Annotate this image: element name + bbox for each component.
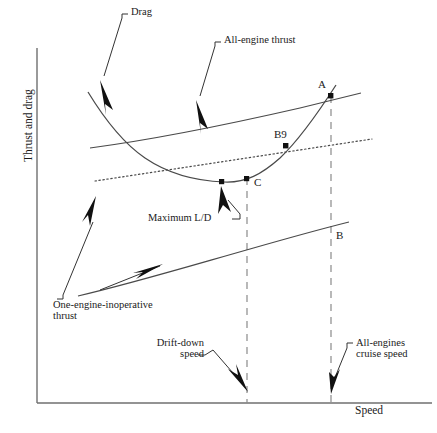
leader-one-engine-inoperative-upper	[57, 222, 93, 299]
arrow-drag	[100, 80, 113, 115]
label-maximum-ld: Maximum L/D	[148, 212, 211, 224]
arrow-drift-down-speed	[228, 364, 248, 392]
leader-drag	[104, 14, 128, 76]
point-label-b9: B9	[274, 128, 287, 140]
label-drag: Drag	[131, 6, 152, 18]
diagram-canvas	[0, 0, 437, 433]
label-all-engines-cruise-speed-line2: cruise speed	[356, 348, 408, 360]
label-one-engine-inoperative-thrust-line1: One-engine-inoperative	[53, 299, 153, 311]
point-label-b: B	[336, 229, 343, 241]
leader-all-engines-cruise-speed	[336, 343, 353, 375]
arrow-one-engine-inoperative-upper	[82, 196, 96, 226]
y-axis-title: Thrust and drag	[22, 89, 35, 162]
label-all-engine-thrust: All-engine thrust	[224, 34, 295, 46]
label-drift-down-speed-line2: speed	[134, 348, 204, 360]
arrow-one-engine-inoperative-lower	[133, 264, 163, 279]
point-label-a: A	[318, 78, 326, 90]
arrow-maximum-ld	[218, 186, 231, 214]
curve-one-engine-inoperative-thrust	[78, 222, 349, 296]
point-label-c: C	[254, 176, 261, 188]
leader-all-engine-thrust	[200, 42, 221, 96]
curve-all-engine-thrust	[90, 93, 361, 148]
label-drift-down-speed-line1: Drift-down	[134, 337, 204, 349]
label-one-engine-inoperative-thrust-line2: thrust	[53, 310, 77, 322]
thrust-and-drag-diagram: Thrust and drag Speed Drag All-engine th…	[0, 0, 437, 433]
label-all-engines-cruise-speed-line1: All-engines	[356, 337, 405, 349]
curve-drag	[88, 85, 336, 182]
x-axis-title: Speed	[355, 404, 383, 417]
